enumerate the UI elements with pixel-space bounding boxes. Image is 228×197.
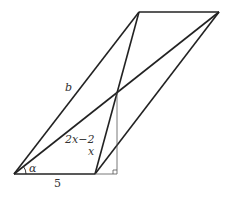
label-alpha: α [29,163,36,174]
label-5: 5 [54,178,61,189]
angle-alpha-arc [24,167,27,174]
label-2x-minus-2: 2x−2 [65,134,94,145]
right-angle-marker [113,170,117,174]
label-b: b [65,82,72,93]
side-right [95,12,219,174]
geometry-diagram: b 2x−2 x α 5 [0,0,228,197]
label-x: x [88,146,94,157]
side-b [14,12,139,174]
